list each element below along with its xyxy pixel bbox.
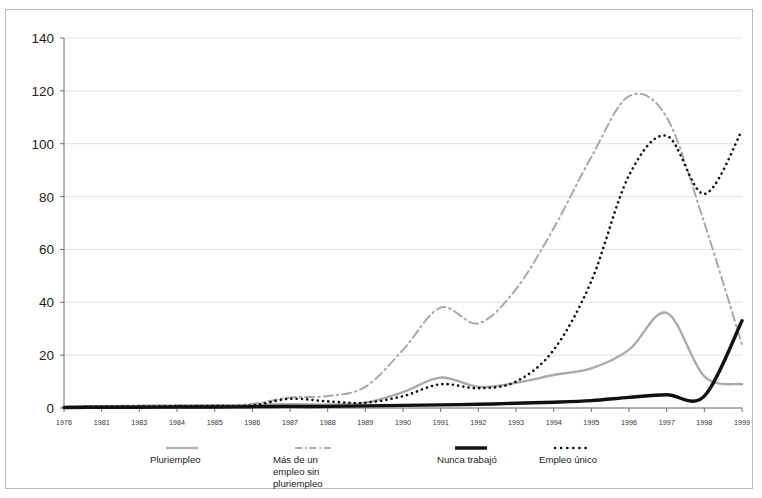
x-axis-tick-label: 1990 bbox=[395, 418, 411, 427]
x-axis-tick-label: 1986 bbox=[244, 418, 260, 427]
x-axis-tick-label: 1991 bbox=[433, 418, 449, 427]
legend-swatch-solid-gray-icon bbox=[164, 444, 200, 452]
legend-swatch-solid-black-icon bbox=[453, 444, 489, 452]
y-axis-tick-label: 140 bbox=[31, 31, 54, 46]
x-axis-tick-label: 1993 bbox=[508, 418, 524, 427]
y-axis-ticks: 020406080100120140 bbox=[31, 31, 64, 416]
chart-svg: 020406080100120140 197619811983198419851… bbox=[0, 0, 762, 498]
x-axis-tick-label: 1998 bbox=[696, 418, 712, 427]
chart-page: 020406080100120140 197619811983198419851… bbox=[0, 0, 762, 498]
x-axis-tick-label: 1985 bbox=[207, 418, 223, 427]
x-axis-ticks: 1976198119831984198519861987198819891990… bbox=[56, 408, 750, 427]
data-series-line bbox=[64, 131, 742, 408]
x-axis-tick-label: 1992 bbox=[470, 418, 486, 427]
x-axis-tick-label: 1976 bbox=[56, 418, 72, 427]
chart-legend: Pluriempleo Más de un empleo sin pluriem… bbox=[5, 440, 753, 490]
y-axis-tick-label: 100 bbox=[31, 137, 54, 152]
data-series-line bbox=[64, 94, 742, 407]
legend-swatch-dotted-black-icon bbox=[553, 444, 589, 452]
data-series-line bbox=[64, 321, 742, 408]
y-axis-tick-label: 0 bbox=[46, 401, 54, 416]
legend-swatch-dashdot-gray-icon bbox=[293, 444, 333, 452]
x-axis-tick-label: 1989 bbox=[357, 418, 373, 427]
y-axis-tick-label: 80 bbox=[39, 190, 54, 205]
data-series-line bbox=[64, 312, 742, 407]
line-chart: 020406080100120140 197619811983198419851… bbox=[0, 0, 762, 498]
x-axis-tick-label: 1999 bbox=[734, 418, 750, 427]
y-axis-tick-label: 20 bbox=[39, 348, 54, 363]
x-axis-tick-label: 1981 bbox=[94, 418, 110, 427]
x-axis-tick-label: 1997 bbox=[659, 418, 675, 427]
x-axis-tick-label: 1996 bbox=[621, 418, 637, 427]
x-axis-tick-label: 1988 bbox=[320, 418, 336, 427]
x-axis-tick-label: 1984 bbox=[169, 418, 185, 427]
legend-label-mas-de-un-empleo: Más de un empleo sin pluriempleo bbox=[273, 454, 323, 490]
x-axis-tick-label: 1983 bbox=[131, 418, 147, 427]
data-series-group bbox=[64, 94, 742, 408]
y-axis-tick-label: 120 bbox=[31, 84, 54, 99]
y-axis-tick-label: 60 bbox=[39, 242, 54, 257]
x-axis-tick-label: 1995 bbox=[583, 418, 599, 427]
x-axis-tick-label: 1987 bbox=[282, 418, 298, 427]
legend-label-pluriempleo: Pluriempleo bbox=[150, 454, 201, 466]
y-axis-tick-label: 40 bbox=[39, 295, 54, 310]
x-axis-tick-label: 1994 bbox=[546, 418, 562, 427]
legend-label-empleo-unico: Empleo único bbox=[539, 454, 597, 466]
legend-label-nunca-trabajo: Nunca trabajó bbox=[437, 454, 497, 466]
